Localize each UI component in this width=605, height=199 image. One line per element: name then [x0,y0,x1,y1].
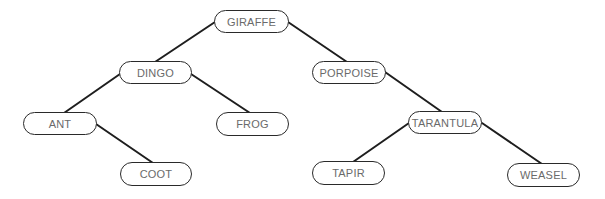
node-label: TARANTULA [412,117,478,129]
node-label: PORPOISE [319,67,378,79]
node-coot: COOT [120,162,192,186]
edge-tarantula-weasel [482,123,542,164]
node-giraffe: GIRAFFE [214,10,289,33]
node-ant: ANT [23,112,97,135]
edge-giraffe-porpoise [288,22,347,62]
node-weasel: WEASEL [507,163,580,187]
edge-tarantula-tapir [353,123,409,162]
node-tapir: TAPIR [312,161,385,185]
node-frog: FROG [216,112,289,136]
node-label: WEASEL [520,169,567,181]
node-label: COOT [140,168,173,180]
node-label: ANT [49,118,72,130]
node-label: TAPIR [332,167,365,179]
node-porpoise: PORPOISE [312,61,386,84]
node-dingo: DINGO [119,61,192,84]
node-label: GIRAFFE [227,16,276,28]
node-label: FROG [236,118,269,130]
node-label: DINGO [137,67,174,79]
edge-dingo-frog [191,74,250,113]
edge-giraffe-dingo [155,22,215,62]
edge-porpoise-tarantula [385,72,442,112]
edge-dingo-ant [64,74,120,113]
node-tarantula: TARANTULA [408,111,482,134]
tree-diagram: GIRAFFE DINGO PORPOISE ANT FROG TARANTUL… [0,0,605,199]
edge-ant-coot [96,124,153,163]
